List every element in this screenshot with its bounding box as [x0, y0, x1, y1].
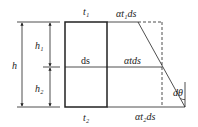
ds-label: ds: [81, 55, 90, 66]
h1-label: h₁: [35, 40, 43, 51]
alpha-t2-ds-label: αt₂ds: [135, 111, 156, 122]
alpha-t-ds-label: αtds: [124, 55, 141, 66]
thermal-strain-diagram: t₁ t₂ h h₁ h₂ ds αt₁ds αtds αt₂ds dθ: [0, 0, 198, 127]
h2-label: h₂: [35, 83, 44, 94]
alpha-t1-ds-label: αt₁ds: [116, 8, 137, 19]
h-label: h: [12, 60, 17, 71]
dtheta-label: dθ: [173, 87, 183, 98]
t2-label: t₂: [83, 112, 90, 123]
t1-label: t₁: [83, 6, 89, 17]
